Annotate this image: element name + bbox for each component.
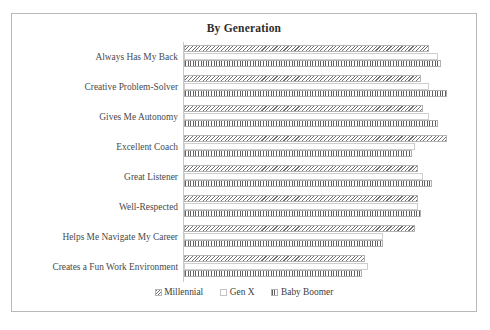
bar-group	[184, 45, 476, 69]
category-label: Always Has My Back	[95, 42, 178, 72]
bar-group	[184, 165, 476, 189]
category-row: Excellent Coach	[12, 132, 476, 162]
bar-group	[184, 255, 476, 279]
bar-baby-boomer[interactable]	[184, 180, 432, 187]
bar-group	[184, 75, 476, 99]
category-label: Great Listener	[124, 162, 178, 192]
bar-millennial[interactable]	[184, 75, 421, 82]
bar-millennial[interactable]	[184, 135, 447, 142]
category-label: Creative Problem-Solver	[85, 72, 178, 102]
bar-millennial[interactable]	[184, 45, 429, 52]
bar-gen-x[interactable]	[184, 53, 438, 60]
legend-item-baby-boomer[interactable]: Baby Boomer	[271, 287, 333, 297]
category-label: Creates a Fun Work Environment	[52, 252, 178, 282]
bar-millennial[interactable]	[184, 105, 423, 112]
bar-group	[184, 225, 476, 249]
bar-baby-boomer[interactable]	[184, 60, 441, 67]
category-label: Helps Me Navigate My Career	[62, 222, 178, 252]
category-row: Creates a Fun Work Environment	[12, 252, 476, 282]
bar-gen-x[interactable]	[184, 263, 368, 270]
bar-group	[184, 135, 476, 159]
bar-millennial[interactable]	[184, 165, 418, 172]
bar-baby-boomer[interactable]	[184, 210, 421, 217]
chart-figure: By Generation Always Has My BackCreative…	[11, 13, 477, 312]
bar-group	[184, 195, 476, 219]
legend-label: Millennial	[164, 287, 203, 297]
bar-gen-x[interactable]	[184, 203, 418, 210]
legend-label: Baby Boomer	[281, 287, 333, 297]
category-row: Always Has My Back	[12, 42, 476, 72]
bar-baby-boomer[interactable]	[184, 270, 362, 277]
bar-gen-x[interactable]	[184, 173, 423, 180]
bar-group	[184, 105, 476, 129]
bar-gen-x[interactable]	[184, 113, 429, 120]
category-label: Gives Me Autonomy	[99, 102, 178, 132]
bar-millennial[interactable]	[184, 255, 365, 262]
category-row: Well-Respected	[12, 192, 476, 222]
bar-baby-boomer[interactable]	[184, 240, 383, 247]
category-row: Helps Me Navigate My Career	[12, 222, 476, 252]
bar-baby-boomer[interactable]	[184, 120, 438, 127]
category-row: Gives Me Autonomy	[12, 102, 476, 132]
bar-baby-boomer[interactable]	[184, 150, 412, 157]
legend-label: Gen X	[230, 287, 255, 297]
category-label: Excellent Coach	[116, 132, 178, 162]
bar-millennial[interactable]	[184, 195, 418, 202]
chart-legend: MillennialGen XBaby Boomer	[12, 287, 476, 297]
plot-area: Always Has My BackCreative Problem-Solve…	[12, 42, 476, 282]
legend-item-millennial[interactable]: Millennial	[155, 287, 204, 297]
category-rows: Always Has My BackCreative Problem-Solve…	[12, 42, 476, 282]
legend-swatch-icon	[155, 289, 162, 296]
category-row: Creative Problem-Solver	[12, 72, 476, 102]
category-row: Great Listener	[12, 162, 476, 192]
bar-gen-x[interactable]	[184, 83, 429, 90]
legend-item-gen-x[interactable]: Gen X	[220, 287, 254, 297]
legend-swatch-icon	[220, 289, 227, 296]
legend-swatch-icon	[271, 289, 278, 296]
bar-baby-boomer[interactable]	[184, 90, 447, 97]
bar-gen-x[interactable]	[184, 233, 383, 240]
category-label: Well-Respected	[119, 192, 178, 222]
chart-title: By Generation	[12, 22, 476, 34]
bar-millennial[interactable]	[184, 225, 415, 232]
bar-gen-x[interactable]	[184, 143, 415, 150]
